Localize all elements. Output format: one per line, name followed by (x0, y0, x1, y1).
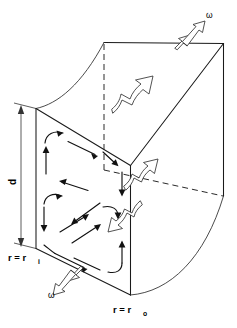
depth-dimension-label: d (7, 179, 18, 185)
technical-figure: d r = r i r = r o ω ω (0, 0, 237, 328)
flow-line-return-left (62, 182, 88, 191)
bottom-outer-curve (131, 196, 224, 295)
flow-arrowhead (57, 131, 63, 137)
top-face-right-edge (131, 44, 224, 166)
rotation-arrow-top-icon (175, 21, 205, 50)
top-inner-curve (36, 43, 104, 109)
svg-text:o: o (143, 310, 147, 317)
flow-line-diag-cross (72, 226, 98, 243)
flow-line-diag-right-down (68, 142, 95, 155)
rotation-arrow-bottom-icon (53, 267, 83, 296)
top-back-edge (104, 43, 224, 44)
annular-sector-diagram: d r = r i r = r o ω ω (0, 0, 237, 328)
dimension-upper-extension (14, 103, 36, 109)
flow-arrowhead (59, 179, 67, 185)
angular-velocity-bottom-label: ω (48, 290, 55, 300)
flow-arrowhead (119, 190, 126, 197)
flow-arrowhead (41, 225, 48, 232)
through-flow-arrow-low-icon (108, 201, 142, 232)
svg-text:r = r: r = r (8, 252, 27, 263)
outer-radius-label: r = r o (113, 304, 147, 317)
flow-arrowhead (43, 146, 50, 153)
svg-text:r = r: r = r (113, 304, 132, 315)
inner-radius-label: r = r i (8, 252, 40, 265)
flow-arc-bottom-right (108, 263, 122, 273)
angular-velocity-top-label: ω (206, 10, 213, 20)
top-face-front-edge (36, 109, 131, 166)
through-flow-arrow-mid-icon (124, 159, 158, 190)
svg-text:i: i (38, 258, 40, 265)
flow-arc-bottom-left (44, 245, 55, 254)
dimension-lower-extension (14, 243, 36, 249)
flow-arrowhead (119, 241, 126, 248)
dimension-arrowhead-top (18, 105, 24, 114)
flow-line-diag-down-left (74, 203, 100, 222)
through-flow-arrow-back-icon (112, 76, 153, 113)
